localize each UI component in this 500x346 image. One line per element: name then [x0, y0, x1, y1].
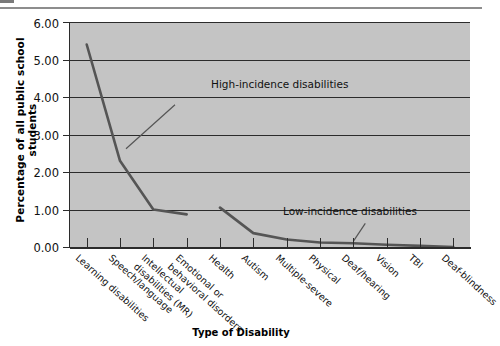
- x-axis-tick: [287, 238, 288, 247]
- x-axis-tick: [220, 238, 221, 247]
- x-axis-tick: [420, 238, 421, 247]
- annotation-low-incidence: Low-incidence disabilities: [283, 205, 417, 217]
- x-axis-tick: [187, 238, 188, 247]
- series-line-high-incidence: [87, 45, 187, 215]
- x-axis-tick: [353, 238, 354, 247]
- x-axis-tick: [453, 238, 454, 247]
- x-axis-tick: [387, 238, 388, 247]
- annotation-leader-low: [353, 223, 365, 241]
- x-axis-tick: [120, 238, 121, 247]
- x-axis-tick: [87, 238, 88, 247]
- x-axis-title: Type of Disability: [0, 327, 482, 338]
- x-axis-tick: [253, 238, 254, 247]
- x-axis-tick: [320, 238, 321, 247]
- y-axis-title: Percentage of all public school students: [14, 10, 38, 250]
- annotation-high-incidence: High-incidence disabilities: [211, 78, 348, 90]
- annotation-leader-high: [126, 105, 175, 149]
- plot-area: High-incidence disabilities Low-incidenc…: [70, 22, 470, 247]
- x-axis-line: [70, 247, 471, 249]
- x-axis-tick: [153, 238, 154, 247]
